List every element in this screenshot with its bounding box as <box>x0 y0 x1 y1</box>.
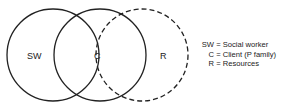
legend-value: Client (P family) <box>223 50 276 59</box>
circle-resources <box>96 9 188 101</box>
legend-key: C <box>194 50 214 60</box>
circle-social-worker <box>7 9 99 101</box>
legend: SW = Social worker C = Client (P family)… <box>194 40 276 69</box>
legend-value: Social worker <box>223 40 269 49</box>
legend-row: R = Resources <box>194 59 276 69</box>
legend-row: SW = Social worker <box>194 40 276 50</box>
legend-key: SW <box>194 40 214 50</box>
label-r: R <box>160 51 167 61</box>
legend-eq: = <box>216 59 220 68</box>
legend-key: R <box>194 59 214 69</box>
legend-eq: = <box>216 50 220 59</box>
label-sw: SW <box>27 51 42 61</box>
legend-row: C = Client (P family) <box>194 50 276 60</box>
legend-eq: = <box>216 40 220 49</box>
legend-value: Resources <box>223 59 259 68</box>
label-c: C <box>94 51 101 61</box>
